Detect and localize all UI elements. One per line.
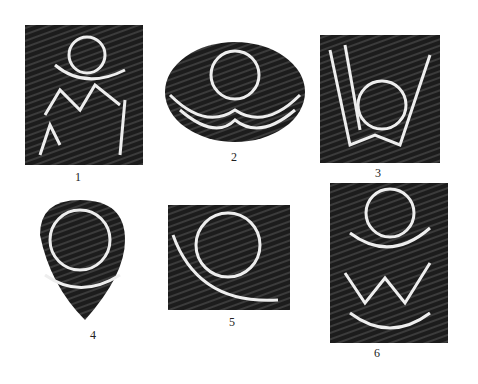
- panel-label-2: 2: [224, 150, 244, 165]
- panel-label-1: 1: [68, 170, 88, 185]
- rubbing-panel-1: [25, 25, 143, 165]
- rubbing-panel-4: [30, 195, 130, 325]
- panel-label-5: 5: [222, 315, 242, 330]
- rubbing-panel-5: [168, 205, 290, 310]
- rubbing-panel-3: [320, 35, 440, 163]
- rubbing-panel-2: [165, 40, 305, 145]
- rubbing-panel-6: [330, 183, 448, 343]
- panel-label-6: 6: [367, 346, 387, 361]
- panel-label-4: 4: [83, 328, 103, 343]
- panel-label-3: 3: [368, 166, 388, 181]
